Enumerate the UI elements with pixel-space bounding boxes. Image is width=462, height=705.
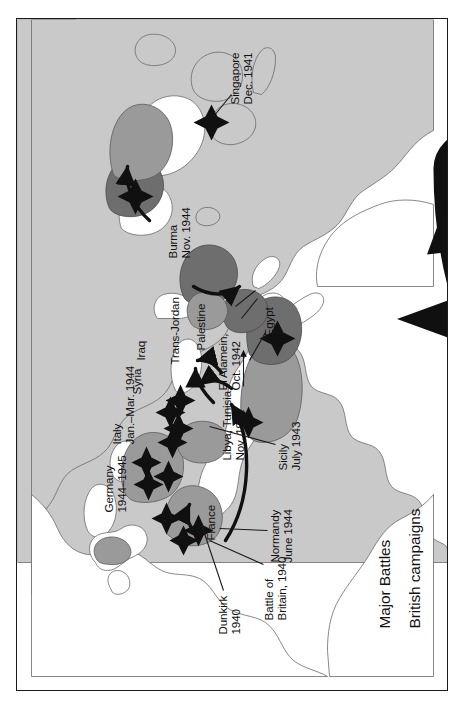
map-frame: .land { fill:#c9c9c9; stroke:#6a6a6a; st… (16, 18, 448, 691)
label-dunkirk: Dunkirk1940 (215, 595, 241, 634)
label-germany: Germany1944–1945 (101, 455, 127, 512)
philippines-island (135, 34, 175, 65)
map-stage: .land { fill:#c9c9c9; stroke:#6a6a6a; st… (17, 19, 447, 690)
label-palestine: Palestine (193, 303, 206, 350)
legend-label-british-campaigns: British campaigns (405, 508, 422, 628)
label-syria: Syria (129, 368, 142, 394)
label-el-alamein: El Alamein,Oct. 1942 (215, 333, 241, 390)
label-iraq: Iraq (133, 340, 146, 360)
label-france: France (203, 505, 216, 540)
map-screenshot: .land { fill:#c9c9c9; stroke:#6a6a6a; st… (0, 0, 462, 705)
label-trans-jordan: Trans-Jordan (167, 297, 180, 364)
label-burma: BurmaNov. 1944 (165, 207, 191, 258)
label-libya-tunisia: Libya, TunisiaNov. 1942 (219, 391, 245, 461)
legend-label-major-battles: Major Battles (375, 539, 392, 628)
label-egypt: Egypt (261, 307, 274, 336)
label-battle-of-britain: Battle ofBritain, 1940 (261, 556, 287, 620)
label-sicily: SicilyJuly 1943 (275, 421, 301, 470)
label-singapore: SingaporeDec. 1941 (227, 52, 253, 104)
territory-uk-home (94, 536, 131, 564)
label-normandy: NormandyJune 1944 (267, 509, 293, 562)
